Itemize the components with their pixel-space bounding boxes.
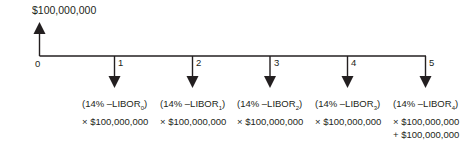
outflow-label-5: (14% –LIBOR4) × $100,000,000 + $100,000,… <box>393 97 459 141</box>
period-label-5: 5 <box>429 57 434 68</box>
outflow-label-2: (14% –LIBOR1) × $100,000,000 <box>160 97 226 128</box>
inflow-amount-label: $100,000,000 <box>32 4 96 16</box>
inflow-arrow-icon <box>34 22 46 56</box>
outflow-label-1: (14% –LIBOR0) × $100,000,000 <box>82 97 148 128</box>
period-label-1: 1 <box>118 57 123 68</box>
period-label-2: 2 <box>196 57 201 68</box>
outflow-label-4: (14% –LIBOR3) × $100,000,000 <box>315 97 381 128</box>
outflow-label-3: (14% –LIBOR2) × $100,000,000 <box>237 97 303 128</box>
period-label-3: 3 <box>274 57 279 68</box>
period-label-4: 4 <box>351 57 356 68</box>
period-label-0: 0 <box>35 58 40 69</box>
